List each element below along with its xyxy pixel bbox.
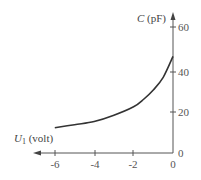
x-tick-label: -6 bbox=[50, 158, 60, 170]
y-tick-label: 0 bbox=[178, 147, 184, 159]
capacitance-curve bbox=[55, 56, 173, 127]
x-axis-arrow-icon bbox=[33, 151, 41, 156]
x-axis-label: U1 (volt) bbox=[14, 132, 53, 146]
capacitance-voltage-chart: -6 -4 -2 0 0 20 40 60 C (pF) U1 (volt) bbox=[0, 0, 201, 180]
y-axis-arrow-icon bbox=[171, 12, 176, 20]
y-axis-label: C (pF) bbox=[137, 12, 166, 25]
y-tick-label: 40 bbox=[178, 66, 190, 78]
x-tick-label: -4 bbox=[90, 158, 100, 170]
y-tick-label: 60 bbox=[178, 21, 190, 33]
x-tick-label: -2 bbox=[128, 158, 137, 170]
x-tick-label: 0 bbox=[170, 158, 176, 170]
y-tick-label: 20 bbox=[178, 106, 190, 118]
